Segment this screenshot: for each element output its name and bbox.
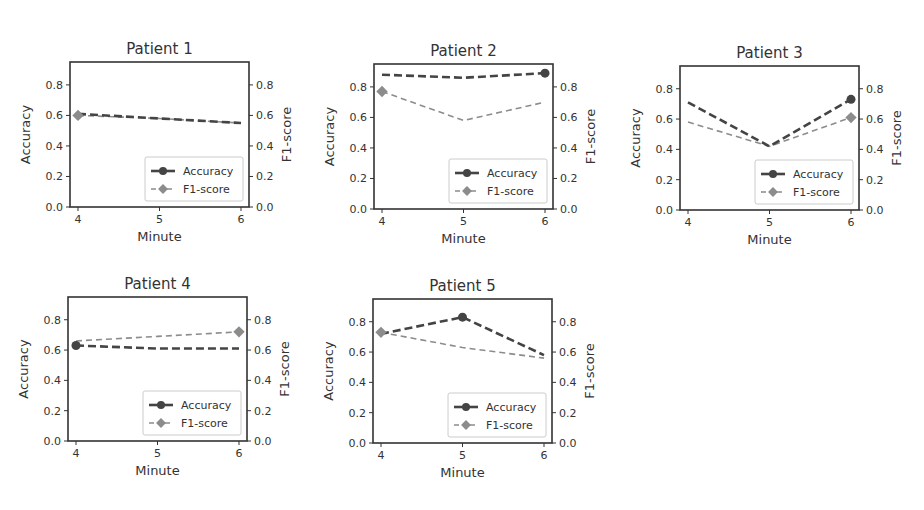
legend-label-accuracy: Accuracy	[486, 401, 537, 414]
y-tick-label-left: 0.4	[46, 140, 64, 153]
y-tick-label-right: 0.2	[559, 407, 577, 420]
x-tick-label: 4	[378, 449, 385, 462]
subplot-patient-3: Patient 30.00.00.20.20.40.40.60.60.80.84…	[628, 44, 904, 247]
y-tick-label-right: 0.6	[559, 346, 577, 359]
y-tick-label-left: 0.8	[349, 316, 367, 329]
legend-label-f1-score: F1-score	[486, 419, 533, 432]
subplot-patient-4: Patient 40.00.00.20.20.40.40.60.60.80.84…	[16, 275, 292, 478]
legend: AccuracyF1-score	[449, 159, 547, 203]
x-tick-label: 6	[236, 447, 243, 460]
x-tick-label: 5	[154, 447, 161, 460]
y-tick-label-left: 0.2	[350, 172, 368, 185]
y-tick-label-left: 0.6	[656, 113, 674, 126]
y-tick-label-right: 0.6	[254, 344, 272, 357]
y-tick-label-right: 0.8	[254, 314, 272, 327]
y-tick-label-left: 0.2	[656, 174, 674, 187]
y-axis-label-right: F1-score	[583, 109, 598, 164]
x-axis-label: Minute	[135, 463, 179, 478]
y-tick-label-left: 0.6	[46, 109, 64, 122]
legend-accuracy-marker	[769, 170, 777, 178]
y-tick-label-left: 0.2	[349, 407, 367, 420]
y-tick-label-right: 0.8	[560, 81, 578, 94]
y-tick-label-right: 0.4	[254, 374, 272, 387]
y-tick-label-right: 0.8	[866, 83, 884, 96]
legend-label-accuracy: Accuracy	[793, 168, 844, 181]
y-tick-label-right: 0.4	[866, 143, 884, 156]
y-axis-label-left: Accuracy	[322, 107, 337, 167]
y-axis-label-left: Accuracy	[321, 341, 336, 401]
y-tick-label-right: 0.8	[256, 79, 274, 92]
legend-accuracy-marker	[463, 169, 471, 177]
x-axis-label: Minute	[137, 229, 181, 244]
x-tick-label: 6	[542, 215, 549, 228]
legend-label-f1-score: F1-score	[793, 186, 840, 199]
subplot-patient-1: Patient 10.00.00.20.20.40.40.60.60.80.84…	[18, 40, 294, 244]
x-axis-label: Minute	[440, 465, 484, 480]
accuracy-marker	[72, 341, 81, 350]
legend-label-f1-score: F1-score	[487, 185, 534, 198]
y-tick-label-right: 0.2	[560, 172, 578, 185]
y-tick-label-left: 0.8	[46, 79, 64, 92]
y-tick-label-left: 0.4	[44, 374, 62, 387]
y-tick-label-right: 0.6	[256, 109, 274, 122]
x-tick-label: 4	[379, 215, 386, 228]
y-tick-label-left: 0.6	[350, 111, 368, 124]
figure-canvas: Patient 10.00.00.20.20.40.40.60.60.80.84…	[0, 0, 924, 510]
legend: AccuracyF1-score	[448, 393, 546, 437]
subplot-patient-5: Patient 50.00.00.20.20.40.40.60.60.80.84…	[321, 277, 597, 480]
y-tick-label-left: 0.4	[656, 143, 674, 156]
subplot-title: Patient 1	[126, 40, 193, 58]
accuracy-marker	[458, 313, 467, 322]
x-tick-label: 5	[766, 216, 773, 229]
y-tick-label-right: 0.2	[866, 174, 884, 187]
legend-label-f1-score: F1-score	[181, 417, 228, 430]
accuracy-marker	[847, 95, 856, 104]
y-tick-label-left: 0.4	[349, 376, 367, 389]
legend-accuracy-marker	[462, 403, 470, 411]
x-tick-label: 5	[460, 215, 467, 228]
y-tick-label-right: 0.6	[866, 113, 884, 126]
y-tick-label-left: 0.0	[349, 437, 367, 450]
y-tick-label-right: 0.6	[560, 111, 578, 124]
y-tick-label-right: 0.0	[254, 435, 272, 448]
y-tick-label-right: 0.0	[866, 204, 884, 217]
legend-accuracy-marker	[157, 401, 165, 409]
y-tick-label-left: 0.8	[44, 314, 62, 327]
x-tick-label: 4	[75, 213, 82, 226]
subplot-title: Patient 3	[736, 44, 803, 62]
x-axis-label: Minute	[747, 232, 791, 247]
y-tick-label-left: 0.8	[656, 83, 674, 96]
x-tick-label: 6	[541, 449, 548, 462]
y-tick-label-left: 0.8	[350, 81, 368, 94]
legend-label-accuracy: Accuracy	[181, 399, 232, 412]
y-tick-label-right: 0.0	[560, 203, 578, 216]
y-axis-label-right: F1-score	[277, 341, 292, 396]
y-tick-label-right: 0.2	[256, 170, 274, 183]
y-tick-label-right: 0.0	[559, 437, 577, 450]
x-tick-label: 6	[848, 216, 855, 229]
y-tick-label-left: 0.0	[44, 435, 62, 448]
subplot-title: Patient 2	[430, 42, 497, 60]
y-tick-label-left: 0.2	[46, 170, 64, 183]
y-axis-label-left: Accuracy	[628, 108, 643, 168]
y-tick-label-right: 0.2	[254, 405, 272, 418]
y-tick-label-right: 0.4	[559, 376, 577, 389]
legend-label-accuracy: Accuracy	[487, 167, 538, 180]
y-axis-label-left: Accuracy	[18, 105, 33, 165]
legend: AccuracyF1-score	[145, 157, 243, 201]
x-tick-label: 4	[73, 447, 80, 460]
x-tick-label: 4	[685, 216, 692, 229]
y-axis-label-right: F1-score	[279, 107, 294, 162]
y-axis-label-left: Accuracy	[16, 339, 31, 399]
y-tick-label-right: 0.4	[560, 142, 578, 155]
y-tick-label-left: 0.2	[44, 405, 62, 418]
x-tick-label: 5	[459, 449, 466, 462]
x-tick-label: 5	[156, 213, 163, 226]
subplot-title: Patient 5	[429, 277, 496, 295]
x-tick-label: 6	[238, 213, 245, 226]
legend-label-f1-score: F1-score	[183, 183, 230, 196]
subplot-patient-2: Patient 20.00.00.20.20.40.40.60.60.80.84…	[322, 42, 598, 246]
x-axis-label: Minute	[441, 231, 485, 246]
y-tick-label-left: 0.0	[656, 204, 674, 217]
y-tick-label-right: 0.8	[559, 316, 577, 329]
